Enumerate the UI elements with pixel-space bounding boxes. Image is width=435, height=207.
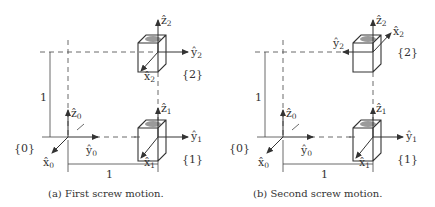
y0-label: ŷ0 bbox=[300, 144, 312, 158]
y2-label: ŷ2 bbox=[332, 37, 344, 51]
z2-label: ẑ2 bbox=[161, 14, 172, 28]
x1-label: x̂1 bbox=[144, 156, 155, 170]
frame-2-label: {2} bbox=[182, 68, 203, 81]
x2-axis-arrow bbox=[141, 52, 158, 71]
cube-top-shade bbox=[145, 36, 161, 42]
x0-label: x̂0 bbox=[43, 156, 54, 170]
dimension-label-horizontal: 1 bbox=[106, 168, 113, 181]
caption-a: (a) First screw motion. bbox=[48, 188, 164, 199]
z2-label: ẑ2 bbox=[376, 14, 387, 28]
frame-2-cube: ẑ2 ŷ2 x̂2 {2} bbox=[138, 14, 203, 84]
tick-mark bbox=[77, 124, 84, 130]
frame-0-label: {0} bbox=[14, 142, 35, 155]
x0-axis-arrow bbox=[52, 137, 68, 153]
frame-1-cube: ẑ1 ŷ1 x̂1 {1} bbox=[349, 102, 418, 170]
dimension-label-vertical: 1 bbox=[40, 91, 47, 104]
frame-1-label: {1} bbox=[397, 153, 418, 166]
z0-label: ẑ0 bbox=[286, 107, 297, 121]
frame-2-label: {2} bbox=[397, 46, 418, 59]
x0-label: x̂0 bbox=[258, 156, 269, 170]
cube-top-shade bbox=[145, 121, 161, 127]
x1-axis-arrow bbox=[141, 137, 158, 158]
x1-label: x̂1 bbox=[359, 156, 370, 170]
dimension-label-vertical: 1 bbox=[255, 91, 262, 104]
y1-label: ŷ1 bbox=[405, 130, 417, 144]
y1-label: ŷ1 bbox=[190, 130, 202, 144]
frame-2-cube: ẑ2 ŷ2 x̂2 {2} bbox=[332, 14, 418, 72]
x2-axis-arrow bbox=[373, 33, 391, 52]
frame-0: ẑ0 ŷ0 x̂0 {0} bbox=[229, 107, 313, 170]
frame-0-label: {0} bbox=[229, 142, 250, 155]
panel-b: 1 1 ẑ0 ŷ0 x̂0 {0} ẑ1 ŷ1 x̂1 {1} bbox=[229, 14, 418, 199]
z0-label: ẑ0 bbox=[71, 107, 82, 121]
x2-label: x̂2 bbox=[393, 25, 404, 39]
y2-label: ŷ2 bbox=[190, 46, 202, 60]
dimension-label-horizontal: 1 bbox=[321, 168, 328, 181]
frame-0: ẑ0 ŷ0 x̂0 {0} bbox=[14, 107, 98, 170]
caption-b: (b) Second screw motion. bbox=[253, 188, 382, 199]
panel-a: 1 1 ẑ0 ŷ0 x̂0 {0} ẑ1 ŷ1 x̂1 {1} bbox=[14, 14, 203, 199]
screw-motion-figure: 1 1 ẑ0 ŷ0 x̂0 {0} ẑ1 ŷ1 x̂1 {1} bbox=[0, 0, 435, 207]
z1-label: ẑ1 bbox=[161, 102, 172, 116]
frame-1-label: {1} bbox=[182, 153, 203, 166]
z1-label: ẑ1 bbox=[376, 102, 387, 116]
y0-label: ŷ0 bbox=[85, 144, 97, 158]
frame-1-cube: ẑ1 ŷ1 x̂1 {1} bbox=[134, 102, 203, 170]
